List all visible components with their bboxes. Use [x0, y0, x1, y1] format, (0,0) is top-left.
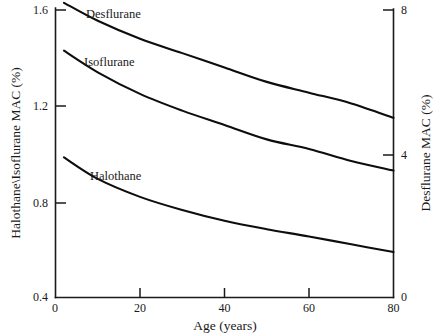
data-curves-group — [64, 3, 394, 252]
right-tick-label-0: 0 — [401, 290, 407, 304]
x-tick-label-20: 20 — [134, 301, 146, 315]
axes-group — [56, 8, 394, 298]
x-tick-label-80: 80 — [388, 301, 400, 315]
left-tick-label-0-4: 0.4 — [33, 290, 48, 304]
y-axis-title: Halothane\Isoflurane MAC (%) — [8, 67, 23, 239]
right-tick-label-4: 4 — [401, 148, 407, 162]
x-tick-label-40: 40 — [219, 301, 231, 315]
right-tick-label-8: 8 — [401, 3, 407, 17]
bottom-axis-ticks — [140, 288, 309, 298]
left-axis-ticks — [56, 10, 67, 203]
curve-label-halothane: Halothane — [90, 169, 142, 183]
curve-label-desflurane: Desflurane — [86, 7, 141, 21]
left-tick-label-1-6: 1.6 — [33, 3, 48, 17]
left-tick-label-1-2: 1.2 — [33, 99, 48, 113]
x-tick-label-60: 60 — [303, 301, 315, 315]
curve-label-isoflurane: Isoflurane — [84, 55, 135, 69]
chart-figure: 1.6 1.2 0.8 0.4 8 4 0 0 20 40 60 80 Age … — [0, 0, 442, 335]
chart-canvas: 1.6 1.2 0.8 0.4 8 4 0 0 20 40 60 80 Age … — [0, 0, 442, 335]
x-axis-title: Age (years) — [193, 318, 256, 333]
x-tick-label-0: 0 — [52, 301, 58, 315]
right-axis-ticks — [383, 10, 394, 155]
y2-axis-title: Desflurane MAC (%) — [418, 95, 433, 212]
left-tick-label-0-8: 0.8 — [33, 196, 48, 210]
